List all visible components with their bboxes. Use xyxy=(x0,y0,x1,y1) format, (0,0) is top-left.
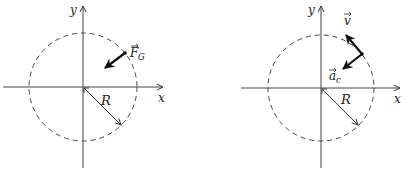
x-axis-label: x xyxy=(394,92,401,106)
right-diagram: x y R v a c xyxy=(241,3,401,168)
x-axis-label: x xyxy=(158,91,165,105)
force-vector-arrow xyxy=(105,53,125,68)
velocity-vector-arrow xyxy=(346,35,362,54)
left-diagram: x y R F G xyxy=(3,3,165,168)
svg-text:v: v xyxy=(344,14,351,28)
radius-arrow xyxy=(322,89,358,125)
svg-text:c: c xyxy=(336,75,341,85)
velocity-vector-label: v xyxy=(344,12,351,28)
diagram-canvas: x y R F G x y R v a c xyxy=(0,0,405,191)
force-vector-label: F G xyxy=(129,44,145,62)
y-axis-label: y xyxy=(69,3,77,17)
svg-text:G: G xyxy=(138,52,145,62)
radius-label: R xyxy=(100,93,111,108)
acceleration-vector-label: a c xyxy=(329,68,341,85)
acceleration-vector-arrow xyxy=(343,54,362,69)
radius-label: R xyxy=(340,92,351,107)
y-axis-label: y xyxy=(307,3,315,17)
